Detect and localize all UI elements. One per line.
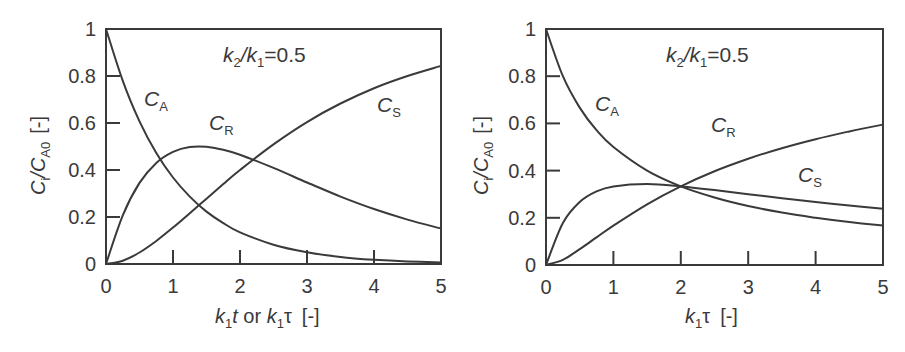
curve-label-cs: CS (377, 93, 401, 120)
x-tick-label: 3 (301, 275, 312, 297)
y-tick-label: 0.4 (68, 159, 96, 181)
curve-label-cs: CS (798, 163, 822, 190)
curve-label-ca: CA (144, 87, 168, 114)
curve-cs (546, 125, 883, 265)
y-tick-label: 0.8 (508, 65, 536, 87)
y-tick-label: 0 (525, 254, 536, 276)
x-axis-ticks: 012345 (100, 250, 446, 297)
y-tick-label: 0.6 (508, 112, 536, 134)
left-chart: 00.20.40.60.81 012345 k2/k1=0.5 CA CR CS… (27, 18, 447, 331)
ratio-annotation: k2/k1=0.5 (223, 43, 306, 70)
x-tick-label: 5 (435, 275, 446, 297)
curve-cr (106, 146, 441, 264)
x-tick-label: 5 (877, 276, 888, 298)
curve-cr (546, 184, 883, 265)
x-axis-ticks: 012345 (540, 251, 888, 298)
y-tick-label: 0.8 (68, 65, 96, 87)
y-tick-label: 0 (85, 253, 96, 275)
curve-label-cr: CR (209, 111, 234, 138)
y-tick-label: 0.4 (508, 160, 536, 182)
x-axis-label: k1τ[-] (685, 305, 738, 331)
y-axis-label: Ci/CA0[-] (470, 116, 496, 195)
y-tick-label: 1 (85, 18, 96, 40)
x-tick-label: 2 (675, 276, 686, 298)
x-tick-label: 4 (810, 276, 821, 298)
curve-label-cr: CR (711, 113, 736, 140)
y-tick-label: 0.2 (68, 206, 96, 228)
x-tick-label: 3 (743, 276, 754, 298)
ratio-annotation: k2/k1=0.5 (666, 43, 749, 70)
y-axis-label: Ci/CA0[-] (27, 116, 53, 195)
curve-label-ca: CA (595, 92, 619, 119)
x-axis-label: k1t or k1τ[-] (215, 305, 320, 331)
y-tick-label: 0.2 (508, 207, 536, 229)
x-tick-label: 4 (368, 275, 379, 297)
x-tick-label: 2 (234, 275, 245, 297)
x-tick-label: 1 (608, 276, 619, 298)
figure: 00.20.40.60.81 012345 k2/k1=0.5 CA CR CS… (0, 0, 905, 352)
y-axis-ticks: 00.20.40.60.81 (508, 18, 560, 276)
y-tick-label: 1 (525, 18, 536, 40)
right-chart: 00.20.40.60.81 012345 k2/k1=0.5 CA CR CS… (470, 18, 889, 331)
x-tick-label: 0 (540, 276, 551, 298)
y-axis-ticks: 00.20.40.60.81 (68, 18, 120, 275)
y-tick-label: 0.6 (68, 112, 96, 134)
x-tick-label: 1 (167, 275, 178, 297)
x-tick-label: 0 (100, 275, 111, 297)
